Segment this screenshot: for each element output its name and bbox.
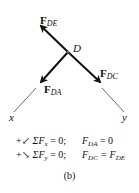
force-arrow-de: [41, 26, 68, 52]
free-body-diagram: [0, 0, 139, 193]
result-x: FDA = 0: [82, 136, 113, 148]
force-arrow-da: [41, 52, 68, 82]
figure-caption: (b): [0, 170, 139, 181]
force-label-dc: FDC: [100, 68, 118, 81]
x-axis-label: x: [9, 112, 14, 123]
equation-y: +↘ ΣFy = 0; FDC = FDE: [16, 150, 66, 162]
force-label-de: FDE: [40, 15, 57, 28]
force-label-da: FDA: [44, 84, 61, 97]
result-y: FDC = FDE: [82, 150, 125, 162]
equation-x: +↙ ΣFx = 0; FDA = 0: [16, 136, 66, 148]
node-label: D: [73, 43, 81, 54]
y-axis-line: [102, 88, 124, 112]
force-arrow-dc: [68, 52, 100, 82]
node-point: [67, 51, 70, 54]
x-axis-line: [14, 88, 36, 112]
y-axis-label: y: [122, 112, 127, 123]
